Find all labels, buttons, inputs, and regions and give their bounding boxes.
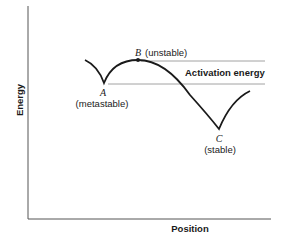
activation-energy-label: Activation energy	[185, 67, 265, 78]
y-axis-label: Energy	[14, 83, 25, 116]
energy-diagram: A (metastable) B (unstable) Activation e…	[0, 0, 285, 244]
state-a-letter: A	[99, 87, 107, 98]
x-axis-label: Position	[171, 223, 209, 234]
state-c-letter: C	[216, 133, 223, 144]
axes	[28, 6, 271, 219]
state-b-letter: B	[135, 47, 141, 58]
state-b-label: (unstable)	[145, 47, 187, 58]
point-b-marker	[136, 58, 140, 62]
state-c-label: (stable)	[204, 144, 236, 155]
state-a-label: (metastable)	[76, 98, 129, 109]
